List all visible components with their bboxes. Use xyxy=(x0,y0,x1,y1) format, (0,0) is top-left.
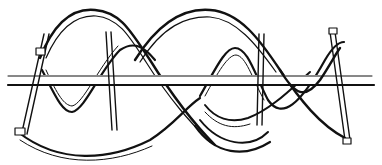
helix-drawing xyxy=(0,0,382,165)
helix-illustration xyxy=(0,0,382,165)
